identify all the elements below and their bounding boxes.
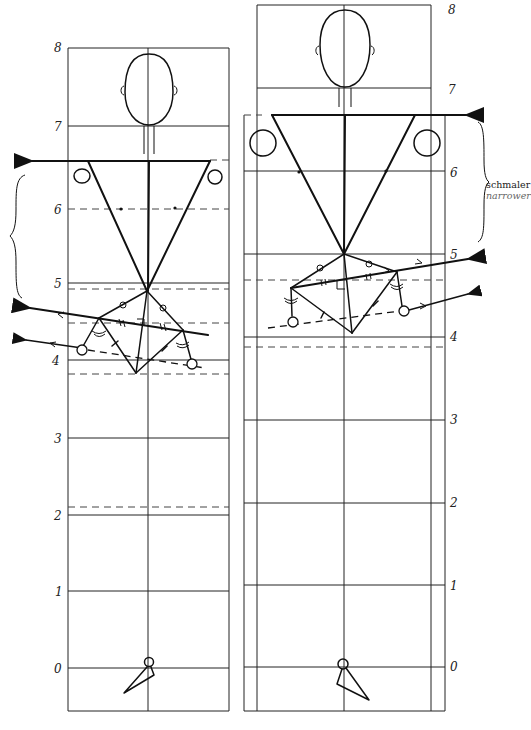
right-figure: 8 7 6 5 4 3 2 1 0 — [244, 3, 489, 711]
svg-text:3: 3 — [450, 413, 458, 427]
svg-text:0: 0 — [450, 660, 458, 674]
right-hip-arrow — [291, 259, 468, 288]
left-shoulder-joint-left — [74, 169, 90, 183]
svg-text:7: 7 — [448, 83, 456, 97]
right-foot — [337, 659, 369, 700]
narrower-annotation: schmaler narrower — [486, 179, 531, 201]
left-scale-labels: 8 7 6 5 4 3 2 1 0 — [51, 41, 63, 676]
left-torso-triangle — [88, 161, 210, 291]
svg-text:2: 2 — [449, 496, 458, 510]
svg-text:8: 8 — [54, 41, 62, 55]
svg-text:3: 3 — [54, 432, 62, 446]
svg-text:5: 5 — [54, 277, 62, 291]
right-grid — [244, 5, 445, 711]
svg-text:6: 6 — [450, 166, 458, 180]
svg-text:1: 1 — [450, 579, 458, 593]
annotation-primary: schmaler — [486, 179, 531, 190]
left-figure: 8 7 6 5 4 3 2 1 0 — [10, 41, 229, 711]
right-hip-circle-left — [288, 317, 298, 327]
right-shoulder-joint-left — [250, 130, 276, 156]
left-grid — [68, 48, 229, 711]
left-hip-arrow — [30, 308, 208, 335]
right-shoulder-joint-right — [414, 130, 440, 156]
svg-text:4: 4 — [449, 330, 458, 344]
right-hip-circle-right — [399, 306, 409, 316]
svg-text:7: 7 — [54, 120, 62, 134]
svg-text:2: 2 — [53, 509, 62, 523]
left-brace — [10, 175, 25, 298]
left-hip-circle-left — [77, 345, 87, 355]
svg-text:5: 5 — [450, 248, 458, 262]
left-pelvis — [82, 291, 192, 373]
left-shoulder-joint-right — [208, 170, 222, 184]
svg-text:1: 1 — [55, 585, 63, 599]
left-foot — [124, 658, 154, 694]
right-head — [316, 10, 374, 107]
left-hip-circle-right — [187, 359, 197, 369]
left-head — [121, 54, 177, 154]
svg-text:0: 0 — [54, 662, 62, 676]
right-scale-labels: 8 7 6 5 4 3 2 1 0 — [448, 3, 458, 674]
annotation-secondary: narrower — [486, 190, 531, 201]
right-lower-arrow — [409, 294, 468, 310]
svg-text:6: 6 — [54, 203, 62, 217]
svg-text:8: 8 — [448, 3, 456, 17]
svg-text:4: 4 — [51, 354, 60, 368]
